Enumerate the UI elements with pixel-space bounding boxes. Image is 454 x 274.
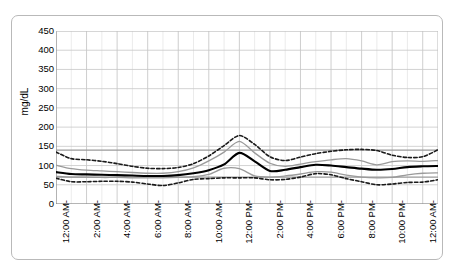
x-tick-label: 4:00 AM- (121, 200, 132, 266)
y-tick-label: 50 (20, 180, 54, 189)
chart-svg (56, 31, 438, 204)
y-tick-label: 0 (20, 199, 54, 208)
x-tick-label: 12:00 PM- (243, 200, 254, 266)
y-tick-label: 250 (20, 103, 54, 112)
x-tick-label: 6:00 AM- (152, 200, 163, 266)
x-tick-label: 2:00 PM- (274, 200, 285, 266)
plot-area (56, 31, 438, 204)
x-tick-label: 8:00 PM- (366, 200, 377, 266)
y-tick-label: 150 (20, 141, 54, 150)
y-tick-label: 400 (20, 45, 54, 54)
x-axis-tick-labels: 12:00 AM-2:00 AM-4:00 AM-6:00 AM-8:00 AM… (56, 204, 438, 270)
y-axis-tick-labels: 050100150200250300350400450 (16, 31, 54, 204)
y-tick-label: 300 (20, 84, 54, 93)
x-tick-label: 12:00 AM- (60, 200, 71, 266)
series-group (56, 136, 438, 186)
x-tick-label: 10:00 AM- (213, 200, 224, 266)
x-tick-label: 12:00 AM- (427, 200, 438, 266)
y-tick-label: 450 (20, 26, 54, 35)
x-tick-label: 2:00 AM- (91, 200, 102, 266)
chart-screenshot: mg/dL 050100150200250300350400450 12:00 … (0, 0, 454, 274)
x-tick-label: 10:00 PM- (396, 200, 407, 266)
x-tick-label: 8:00 AM- (182, 200, 193, 266)
y-tick-label: 200 (20, 122, 54, 131)
x-tick-label: 6:00 PM- (335, 200, 346, 266)
y-tick-label: 100 (20, 161, 54, 170)
reference-lines (56, 150, 438, 177)
y-tick-label: 350 (20, 64, 54, 73)
x-tick-label: 4:00 PM- (304, 200, 315, 266)
